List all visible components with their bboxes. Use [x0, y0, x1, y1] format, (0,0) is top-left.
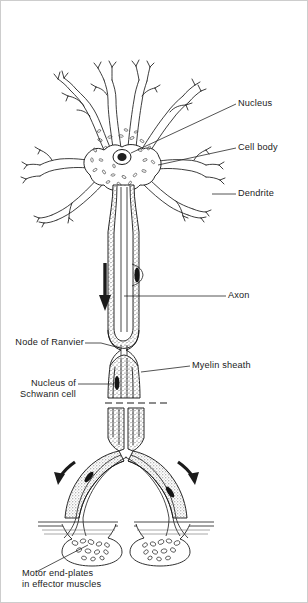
axon-upper-segment: [108, 185, 143, 348]
impulse-arrow-left-branch: [54, 462, 75, 485]
neuron-diagram-figure: Nucleus Cell body Dendrite Axon Myelin s…: [0, 0, 308, 603]
label-axon: Axon: [228, 290, 250, 301]
label-nucleus: Nucleus: [238, 98, 272, 109]
label-cell-body: Cell body: [238, 142, 278, 153]
leader-myelin-sheath: [141, 366, 190, 372]
leader-cell-body: [158, 148, 236, 165]
schwann-cell-nucleus-lower: [115, 376, 120, 390]
terminal-branch-right: [125, 451, 187, 518]
label-nucleus-of-schwann-cell: Nucleus of Schwann cell: [4, 378, 76, 400]
label-myelin-sheath: Myelin sheath: [192, 360, 251, 371]
axon-resume-segment: [108, 408, 144, 451]
motor-end-plate-left: [38, 518, 122, 566]
schwann-cell-nucleus-upper: [134, 268, 139, 283]
label-node-of-ranvier: Node of Ranvier: [8, 337, 84, 348]
leader-nucleus: [131, 104, 236, 153]
impulse-arrow-right-branch: [178, 462, 199, 485]
motor-end-plate-right: [130, 518, 214, 566]
label-motor-end-plates: Motor end-plates in effector muscles: [22, 568, 142, 590]
nucleus-body: [117, 153, 126, 161]
neuron-illustration: [0, 0, 308, 603]
label-dendrite: Dendrite: [238, 188, 274, 199]
axon-lower-segment: [108, 355, 140, 398]
